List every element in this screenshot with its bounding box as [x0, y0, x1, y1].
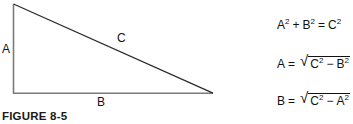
triangle-svg	[0, 0, 230, 100]
equation-1-radicand-minus-operator: −	[323, 58, 336, 70]
equation-0-lhs-base: A	[277, 18, 285, 32]
right-triangle-diagram: A B C	[0, 0, 230, 100]
triangle-label-a: A	[2, 43, 10, 55]
equation-0-plus-operator: +	[289, 19, 302, 31]
equation-pythagorean-theorem: A2 + B2 = C2	[277, 19, 341, 31]
figure-container: A B C FIGURE 8-5 A2 + B2 = C2 A = √ C2−B…	[0, 0, 353, 124]
equation-2-radicand-minus-operator: −	[323, 95, 336, 107]
equation-0-lhs: A2	[277, 19, 289, 31]
equation-1-radicand-second-exponent: 2	[344, 56, 348, 65]
triangle-label-c: C	[117, 32, 126, 44]
equation-2-radicand-second-exponent: 2	[344, 93, 348, 102]
equation-2-radicand: C2−A2	[308, 93, 350, 107]
equation-1-radical: √ C2−B2	[300, 56, 350, 70]
equation-2-radical: √ C2−A2	[300, 93, 350, 107]
equation-solve-for-a: A = √ C2−B2	[277, 56, 350, 70]
equation-solve-for-b: B = √ C2−A2	[277, 93, 350, 107]
equation-1-equals-operator: =	[285, 58, 298, 70]
equation-0-rhs-base: C	[328, 18, 337, 32]
equation-0-equals-operator: =	[315, 19, 328, 31]
equation-0-rhs-exponent: 2	[337, 17, 341, 26]
equation-2-radicand-first-base: C	[310, 94, 319, 108]
radical-sign-icon: √	[300, 55, 308, 67]
equation-1-radicand: C2−B2	[308, 56, 350, 70]
equation-0-rhs: C2	[328, 19, 341, 31]
equation-list: A2 + B2 = C2 A = √ C2−B2 B = √ C2−A2	[277, 0, 353, 124]
equation-0-mid-base: B	[302, 18, 310, 32]
equation-1-lhs: A	[277, 58, 285, 70]
equation-0-mid: B2	[302, 19, 314, 31]
triangle-hypotenuse-line	[14, 4, 214, 93]
equation-1-radicand-first-base: C	[310, 57, 319, 71]
radical-sign-icon: √	[300, 92, 308, 104]
equation-2-equals-operator: =	[285, 95, 298, 107]
figure-caption: FIGURE 8-5	[2, 110, 67, 122]
triangle-label-b: B	[97, 96, 105, 108]
equation-2-lhs: B	[277, 95, 285, 107]
